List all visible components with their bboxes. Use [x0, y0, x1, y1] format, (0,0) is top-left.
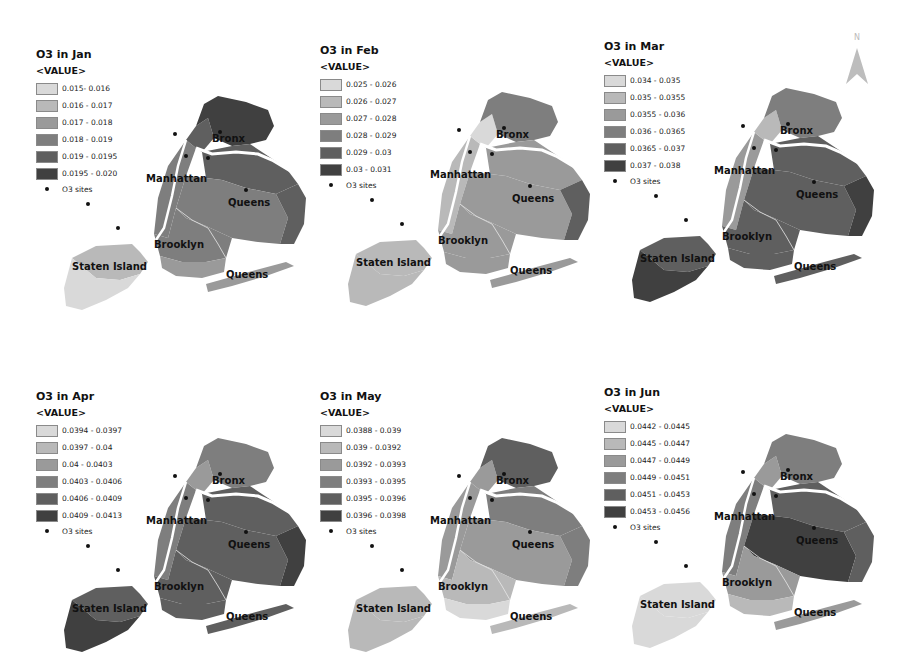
o3-site-marker — [86, 544, 90, 548]
jamaica-bay-water — [516, 586, 564, 608]
label-bronx: Bronx — [780, 125, 814, 136]
label-queens-south: Queens — [794, 607, 836, 618]
nyc-map: Bronx Manhattan Queens Brooklyn Staten I… — [36, 390, 326, 672]
label-manhattan: Manhattan — [430, 515, 491, 526]
label-manhattan: Manhattan — [146, 173, 207, 184]
o3-site-marker — [468, 496, 472, 500]
map-panel-apr: O3 in Apr<VALUE> 0.0394 - 0.0397 0.0397 … — [36, 390, 326, 672]
label-queens: Queens — [796, 189, 838, 200]
nyc-map: Bronx Manhattan Queens Brooklyn Staten I… — [320, 390, 610, 672]
label-bronx: Bronx — [212, 133, 246, 144]
map-panel-mar: O3 in Mar<VALUE> 0.034 - 0.035 0.035 - 0… — [604, 40, 894, 340]
label-brooklyn: Brooklyn — [438, 235, 488, 246]
label-manhattan: Manhattan — [714, 511, 775, 522]
map-panel-jan: O3 in Jan<VALUE> 0.015- 0.016 0.016 - 0.… — [36, 48, 326, 348]
o3-site-marker — [457, 128, 461, 132]
label-queens: Queens — [228, 197, 270, 208]
label-queens: Queens — [512, 539, 554, 550]
map-panel-feb: O3 in Feb<VALUE> 0.025 - 0.026 0.026 - 0… — [320, 44, 610, 344]
jamaica-bay-water — [800, 236, 848, 258]
o3-site-marker — [244, 188, 248, 192]
o3-site-marker — [752, 146, 756, 150]
o3-site-marker — [116, 568, 120, 572]
o3-site-marker — [774, 494, 778, 498]
label-brooklyn: Brooklyn — [722, 231, 772, 242]
label-queens: Queens — [796, 535, 838, 546]
label-queens-south: Queens — [794, 261, 836, 272]
label-staten-island: Staten Island — [72, 261, 147, 272]
o3-site-marker — [173, 474, 177, 478]
o3-site-marker — [741, 470, 745, 474]
nyc-map: Bronx Manhattan Queens Brooklyn Staten I… — [604, 40, 894, 340]
o3-site-marker — [490, 498, 494, 502]
label-bronx: Bronx — [496, 129, 530, 140]
o3-site-marker — [86, 202, 90, 206]
o3-site-marker — [528, 530, 532, 534]
label-staten-island: Staten Island — [640, 253, 715, 264]
o3-site-marker — [400, 222, 404, 226]
o3-site-marker — [684, 218, 688, 222]
jamaica-bay-water — [232, 244, 280, 266]
o3-site-marker — [457, 474, 461, 478]
o3-site-marker — [528, 184, 532, 188]
label-manhattan: Manhattan — [714, 165, 775, 176]
label-bronx: Bronx — [212, 475, 246, 486]
nyc-map: Bronx Manhattan Queens Brooklyn Staten I… — [36, 48, 326, 348]
label-queens: Queens — [512, 193, 554, 204]
label-queens-south: Queens — [510, 265, 552, 276]
label-manhattan: Manhattan — [430, 169, 491, 180]
o3-site-marker — [173, 132, 177, 136]
map-panel-jun: O3 in Jun<VALUE> 0.0442 - 0.0445 0.0445 … — [604, 386, 894, 672]
label-staten-island: Staten Island — [356, 257, 431, 268]
o3-site-marker — [400, 568, 404, 572]
o3-site-marker — [684, 564, 688, 568]
label-staten-island: Staten Island — [356, 603, 431, 614]
o3-site-marker — [468, 150, 472, 154]
label-queens-south: Queens — [226, 269, 268, 280]
o3-site-marker — [812, 526, 816, 530]
label-brooklyn: Brooklyn — [154, 239, 204, 250]
label-brooklyn: Brooklyn — [722, 577, 772, 588]
jamaica-bay-water — [232, 586, 280, 608]
o3-site-marker — [244, 530, 248, 534]
label-queens-south: Queens — [226, 611, 268, 622]
o3-site-marker — [184, 496, 188, 500]
o3-site-marker — [654, 540, 658, 544]
o3-site-marker — [206, 156, 210, 160]
o3-site-marker — [654, 194, 658, 198]
o3-site-marker — [370, 544, 374, 548]
o3-site-marker — [184, 154, 188, 158]
label-staten-island: Staten Island — [72, 603, 147, 614]
o3-site-marker — [774, 148, 778, 152]
jamaica-bay-water — [800, 582, 848, 604]
nyc-map: Bronx Manhattan Queens Brooklyn Staten I… — [604, 386, 894, 672]
nyc-map: Bronx Manhattan Queens Brooklyn Staten I… — [320, 44, 610, 344]
o3-site-marker — [116, 226, 120, 230]
label-bronx: Bronx — [780, 471, 814, 482]
label-manhattan: Manhattan — [146, 515, 207, 526]
o3-site-marker — [752, 492, 756, 496]
o3-site-marker — [741, 124, 745, 128]
o3-site-marker — [490, 152, 494, 156]
map-panel-may: O3 in May<VALUE> 0.0388 - 0.039 0.039 - … — [320, 390, 610, 672]
o3-site-marker — [812, 180, 816, 184]
label-brooklyn: Brooklyn — [438, 581, 488, 592]
o3-site-marker — [370, 198, 374, 202]
label-staten-island: Staten Island — [640, 599, 715, 610]
label-bronx: Bronx — [496, 475, 530, 486]
label-queens-south: Queens — [510, 611, 552, 622]
label-queens: Queens — [228, 539, 270, 550]
jamaica-bay-water — [516, 240, 564, 262]
label-brooklyn: Brooklyn — [154, 581, 204, 592]
o3-site-marker — [206, 498, 210, 502]
